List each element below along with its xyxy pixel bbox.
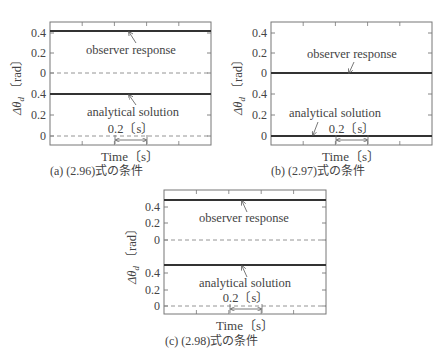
- analytical-arrow-icon: [313, 122, 318, 135]
- analytical-solution-label: analytical solution: [87, 105, 180, 119]
- y-tick-label: 0.4: [31, 87, 46, 101]
- figure-canvas: 0.40.200.40.20observer responseanalytica…: [0, 0, 446, 357]
- x-axis-label: Time〔s〕: [101, 149, 159, 164]
- scale-bar-label: 0.2〔s〕: [108, 122, 155, 136]
- y-axis-subscript: d: [16, 96, 26, 101]
- chart-panel-a: 0.40.200.40.20observer responseanalytica…: [10, 22, 211, 178]
- y-tick-label: 0.2: [145, 283, 160, 297]
- observer-response-label: observer response: [307, 47, 397, 61]
- y-axis-symbol: Δθ: [10, 101, 24, 115]
- observer-response-label: observer response: [86, 43, 176, 57]
- y-tick-label: 0: [261, 129, 267, 143]
- y-axis-unit: 〔rad〕: [125, 222, 139, 264]
- analytical-solution-label: analytical solution: [289, 106, 382, 120]
- y-tick-label: 0.4: [252, 26, 267, 40]
- y-axis-label: Δθd〔rad〕: [231, 53, 247, 116]
- observer-arrow-icon: [349, 62, 354, 73]
- y-tick-label: 0: [40, 66, 46, 80]
- y-tick-label: 0.4: [31, 26, 46, 40]
- analytical-arrow-icon: [129, 95, 136, 105]
- scale-bar-label: 0.2〔s〕: [329, 122, 376, 136]
- y-axis-label: Δθd〔rad〕: [125, 222, 141, 285]
- analytical-solution-label: analytical solution: [199, 276, 292, 290]
- y-tick-label: 0.2: [31, 46, 46, 60]
- chart-panel-c: 0.40.200.40.20observer responseanalytica…: [125, 190, 326, 348]
- y-axis-unit: 〔rad〕: [231, 53, 245, 95]
- y-tick-label: 0.4: [145, 266, 160, 280]
- x-axis-label: Time〔s〕: [216, 318, 274, 333]
- y-tick-label: 0.2: [31, 108, 46, 122]
- y-axis-symbol: Δθ: [125, 270, 139, 284]
- y-tick-label: 0.4: [252, 87, 267, 101]
- x-axis-label: Time〔s〕: [322, 149, 380, 164]
- y-tick-label: 0.2: [145, 216, 160, 230]
- panel-caption: (c) (2.98)式の条件: [165, 334, 258, 348]
- y-tick-label: 0.2: [252, 46, 267, 60]
- observer-arrow-icon: [129, 32, 136, 43]
- panel-caption: (a) (2.96)式の条件: [50, 164, 143, 178]
- chart-panel-b: 0.40.200.40.20observer responseanalytica…: [231, 22, 432, 178]
- y-axis-label: Δθd〔rad〕: [10, 53, 26, 116]
- y-tick-label: 0: [154, 233, 160, 247]
- y-tick-label: 0.2: [252, 108, 267, 122]
- y-tick-label: 0: [40, 129, 46, 143]
- y-axis-subscript: d: [237, 96, 247, 101]
- y-tick-label: 0: [261, 66, 267, 80]
- y-axis-subscript: d: [131, 265, 141, 270]
- scale-bar-label: 0.2〔s〕: [223, 291, 270, 305]
- y-tick-label: 0.4: [145, 200, 160, 214]
- observer-response-label: observer response: [199, 211, 289, 225]
- y-axis-unit: 〔rad〕: [10, 53, 24, 95]
- y-axis-symbol: Δθ: [231, 101, 245, 115]
- y-tick-label: 0: [154, 299, 160, 313]
- panel-caption: (b) (2.97)式の条件: [271, 164, 365, 178]
